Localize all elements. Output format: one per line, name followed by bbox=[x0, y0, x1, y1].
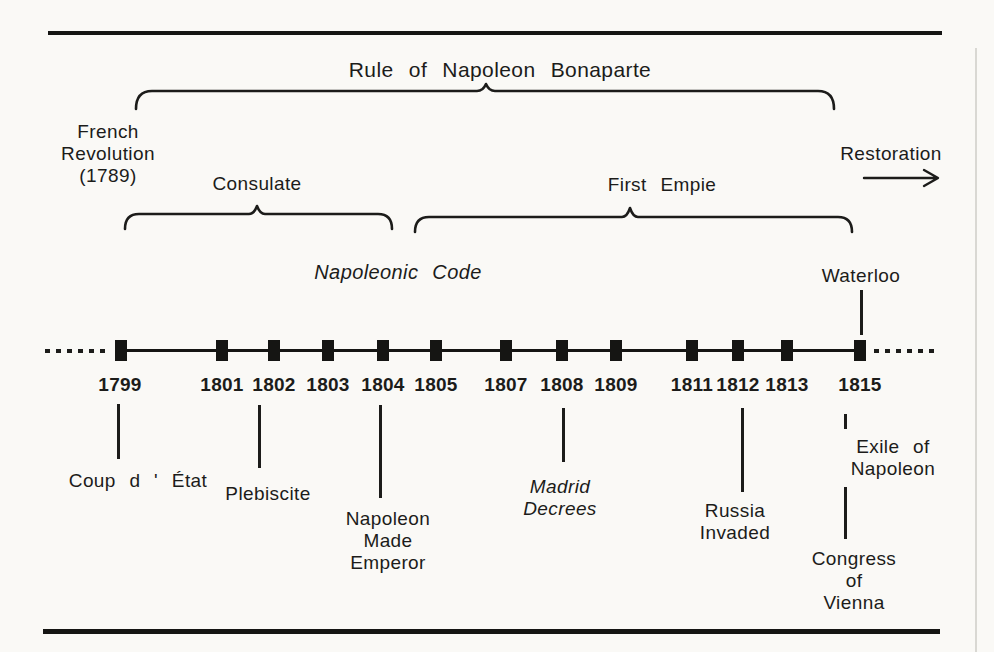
timeline-tick-1803 bbox=[322, 340, 334, 361]
right-arrow-icon bbox=[864, 170, 938, 186]
event-label-line: Congress bbox=[812, 548, 897, 570]
timeline-tick-1802 bbox=[268, 340, 280, 361]
timeline-tick-1799 bbox=[115, 340, 127, 361]
waterloo-label: Waterloo bbox=[822, 265, 901, 287]
year-label-1799: 1799 bbox=[98, 374, 141, 396]
timeline-left-dots bbox=[45, 349, 109, 353]
event-label-line: Napoleon bbox=[851, 458, 936, 480]
connector-line bbox=[379, 405, 382, 498]
timeline-tick-1807 bbox=[500, 340, 512, 361]
event-label-line: Russia bbox=[700, 500, 770, 522]
timeline-tick-1813 bbox=[781, 340, 793, 361]
french-revolution-line: Revolution bbox=[61, 143, 155, 165]
year-label-1803: 1803 bbox=[306, 374, 349, 396]
year-label-1801: 1801 bbox=[200, 374, 243, 396]
french-revolution-line: French bbox=[61, 121, 155, 143]
year-label-1812: 1812 bbox=[716, 374, 759, 396]
french-revolution-line: (1789) bbox=[61, 165, 155, 187]
event-label-line: Napoleon bbox=[346, 508, 431, 530]
year-label-1815: 1815 bbox=[838, 374, 881, 396]
period-french-revolution: French Revolution (1789) bbox=[61, 121, 155, 187]
timeline-axis-line bbox=[121, 349, 861, 352]
event-label: Russia Invaded bbox=[700, 500, 770, 544]
timeline-tick-1801 bbox=[216, 340, 228, 361]
year-label-1804: 1804 bbox=[361, 374, 404, 396]
year-label-1807: 1807 bbox=[484, 374, 527, 396]
timeline-tick-1805 bbox=[430, 340, 442, 361]
connector-line bbox=[844, 487, 847, 539]
connector-line bbox=[741, 408, 744, 492]
timeline-tick-1815 bbox=[854, 340, 866, 361]
timeline-tick-1812 bbox=[732, 340, 744, 361]
consulate-brace bbox=[125, 206, 392, 229]
event-label-line: Exile of bbox=[851, 436, 936, 458]
year-label-1813: 1813 bbox=[765, 374, 808, 396]
event-label: Napoleon Made Emperor bbox=[346, 508, 431, 574]
timeline-tick-1804 bbox=[377, 340, 389, 361]
timeline-tick-1809 bbox=[610, 340, 622, 361]
year-label-1811: 1811 bbox=[671, 374, 713, 396]
period-consulate: Consulate bbox=[212, 173, 301, 195]
waterloo-connector-line bbox=[860, 290, 863, 335]
connector-line bbox=[562, 408, 565, 462]
event-label: Coup d ' État bbox=[69, 470, 207, 492]
year-label-1809: 1809 bbox=[594, 374, 637, 396]
event-label-line: of bbox=[812, 570, 897, 592]
event-label: Plebiscite bbox=[225, 483, 310, 505]
timeline-tick-1808 bbox=[556, 340, 568, 361]
timeline-tick-1811 bbox=[686, 340, 698, 361]
napoleon-timeline-diagram: Rule of Napoleon Bonaparte French Revolu… bbox=[0, 0, 994, 652]
connector-line bbox=[258, 405, 261, 468]
event-label-line: Madrid bbox=[523, 476, 597, 498]
period-first-empire: First Empie bbox=[608, 174, 716, 196]
event-label-line: Made bbox=[346, 530, 431, 552]
event-label-line: Emperor bbox=[346, 552, 431, 574]
event-label-line: Vienna bbox=[812, 592, 897, 614]
year-label-1805: 1805 bbox=[414, 374, 457, 396]
event-label-line: Decrees bbox=[523, 498, 597, 520]
connector-line bbox=[117, 404, 120, 459]
year-label-1808: 1808 bbox=[540, 374, 583, 396]
diagram-title: Rule of Napoleon Bonaparte bbox=[349, 58, 651, 82]
event-label: Madrid Decrees bbox=[523, 476, 597, 520]
period-restoration: Restoration bbox=[840, 143, 942, 165]
timeline-right-dots bbox=[874, 349, 936, 353]
event-label: Congress of Vienna bbox=[812, 548, 897, 614]
event-label-line: Invaded bbox=[700, 522, 770, 544]
connector-line bbox=[844, 414, 847, 429]
napoleonic-code-label: Napoleonic Code bbox=[314, 261, 481, 284]
first-empire-brace bbox=[415, 208, 852, 232]
rule-of-napoleon-brace bbox=[136, 84, 834, 109]
year-label-1802: 1802 bbox=[252, 374, 295, 396]
event-label: Exile of Napoleon bbox=[851, 436, 936, 480]
